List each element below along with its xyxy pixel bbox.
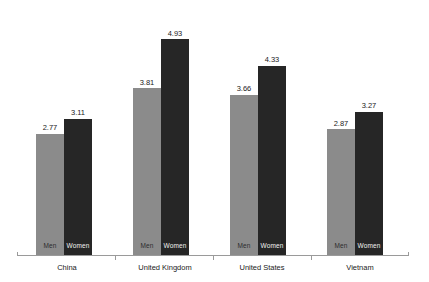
bar-vietnam-women[interactable]: 3.27 Women [355, 112, 383, 255]
bar-united-states-women[interactable]: 4.33 Women [258, 66, 286, 255]
bar-chart: 2.77 Men 3.11 Women 3.81 Men 4.93 Women … [0, 0, 429, 282]
x-axis-label-united-kingdom: United Kingdom [116, 263, 214, 273]
series-tag-men: Men [133, 242, 161, 250]
value-label-united-states-women: 4.33 [252, 55, 292, 64]
series-tag-women: Women [355, 242, 383, 250]
plot-area: 2.77 Men 3.11 Women 3.81 Men 4.93 Women … [17, 10, 409, 255]
bar-united-kingdom-men[interactable]: 3.81 Men [133, 88, 161, 255]
series-tag-women: Women [258, 242, 286, 250]
x-axis-start-cap [17, 252, 18, 256]
x-axis-tick-3 [311, 256, 312, 260]
value-label-china-women: 3.11 [58, 108, 98, 117]
bar-united-kingdom-women[interactable]: 4.93 Women [161, 39, 189, 255]
bar-group-united-states: 3.66 Men 4.33 Women [230, 10, 286, 255]
bar-group-united-kingdom: 3.81 Men 4.93 Women [133, 10, 189, 255]
series-tag-women: Women [161, 242, 189, 250]
x-axis-tick-1 [115, 256, 116, 260]
x-axis-tick-2 [213, 256, 214, 260]
bar-china-women[interactable]: 3.11 Women [64, 119, 92, 255]
series-tag-men: Men [36, 242, 64, 250]
bar-vietnam-men[interactable]: 2.87 Men [327, 129, 355, 255]
series-tag-men: Men [327, 242, 355, 250]
value-label-united-kingdom-women: 4.93 [155, 29, 195, 38]
bar-china-men[interactable]: 2.77 Men [36, 134, 64, 255]
series-tag-women: Women [64, 242, 92, 250]
x-axis-end-cap [408, 252, 409, 256]
x-axis-label-china: China [18, 263, 116, 273]
x-axis-label-vietnam: Vietnam [311, 263, 409, 273]
bar-united-states-men[interactable]: 3.66 Men [230, 95, 258, 255]
bar-group-china: 2.77 Men 3.11 Women [36, 10, 92, 255]
series-tag-men: Men [230, 242, 258, 250]
x-axis-label-united-states: United States [213, 263, 311, 273]
bar-group-vietnam: 2.87 Men 3.27 Women [327, 10, 383, 255]
value-label-vietnam-women: 3.27 [349, 101, 389, 110]
